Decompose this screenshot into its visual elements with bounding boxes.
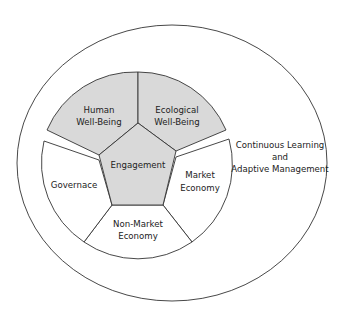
label-human-line1: Human	[84, 105, 115, 115]
label-nonmarket-line2: Economy	[118, 231, 158, 241]
outer-label-line3: Adaptive Management	[231, 164, 329, 174]
label-market-line2: Economy	[180, 183, 220, 193]
label-nonmarket-line1: Non-Market	[113, 219, 163, 229]
label-market-line1: Market	[185, 170, 215, 180]
label-ecological-line2: Well-Being	[154, 117, 199, 127]
diagram-canvas: Human Well-Being Ecological Well-Being E…	[0, 0, 343, 314]
label-ecological-line1: Ecological	[155, 105, 198, 115]
label-governance: Governace	[51, 180, 97, 190]
outer-label-line2: and	[272, 152, 288, 162]
label-engagement: Engagement	[111, 160, 166, 170]
outer-label-line1: Continuous Learning	[236, 140, 325, 150]
label-human-line2: Well-Being	[76, 117, 121, 127]
